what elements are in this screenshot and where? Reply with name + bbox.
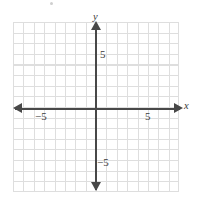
stray-mark [50,2,53,5]
coordinate-plane-figure: y x 5 −5 5 −5 [0,0,197,208]
x-tick-label-5: 5 [145,111,151,122]
y-tick-label-5: 5 [100,49,106,60]
y-axis-label: y [93,11,98,22]
y-axis-up-arrow-icon [91,21,101,30]
y-axis-down-arrow-icon [91,182,101,191]
y-tick-label-minus-5: −5 [97,157,109,168]
x-axis-left-arrow-icon [13,103,22,113]
x-axis-label: x [184,100,189,111]
x-tick-label-minus-5: −5 [35,111,47,122]
x-axis-right-arrow-icon [174,103,183,113]
